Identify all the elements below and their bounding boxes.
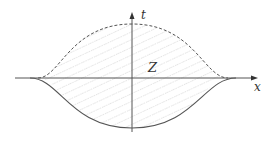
x-axis-label: x (254, 80, 261, 94)
region-label: Z (147, 60, 158, 75)
region-diagram: t Z x (0, 0, 273, 149)
t-axis-label: t (141, 8, 146, 22)
t-axis-arrow-icon (130, 12, 135, 19)
